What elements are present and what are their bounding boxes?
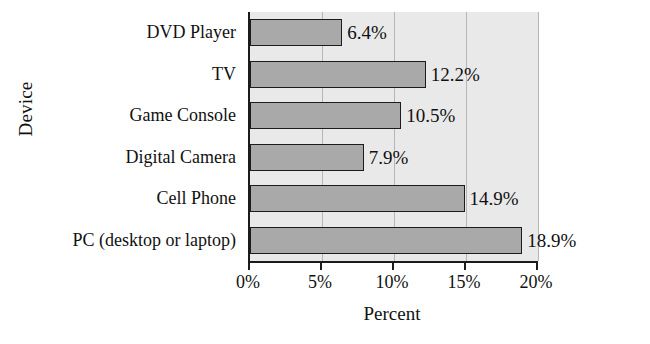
bar-row: 14.9% (250, 185, 538, 212)
x-axis-tick-mark (392, 261, 394, 270)
bar-row: 18.9% (250, 227, 538, 254)
gridline (466, 12, 467, 261)
gridline (538, 12, 539, 261)
y-axis-tick-label: TV (212, 61, 236, 88)
bar-value-label: 7.9% (364, 144, 409, 171)
y-axis-tick-label: Cell Phone (157, 185, 237, 212)
x-axis-tick-label: 15% (429, 272, 499, 293)
bar[interactable] (250, 19, 342, 46)
x-axis-tick-label: 0% (213, 272, 283, 293)
bar-row: 12.2% (250, 61, 538, 88)
bar-row: 7.9% (250, 144, 538, 171)
bar-value-label: 14.9% (465, 185, 519, 212)
bar[interactable] (250, 144, 364, 171)
x-axis-tick-mark (248, 261, 250, 270)
bar[interactable] (250, 102, 401, 129)
bar-value-label: 10.5% (401, 102, 455, 129)
bar[interactable] (250, 227, 522, 254)
y-axis-tick-labels: DVD PlayerTVGame ConsoleDigital CameraCe… (30, 12, 242, 261)
gridline (322, 12, 323, 261)
x-axis-tick-mark (536, 261, 538, 270)
y-axis-tick-label: DVD Player (147, 19, 236, 46)
y-axis-tick-label: PC (desktop or laptop) (73, 227, 237, 254)
x-axis-title: Percent (248, 303, 536, 325)
x-axis-tick-label: 20% (501, 272, 571, 293)
x-axis-tick-label: 10% (357, 272, 427, 293)
x-axis-tick-mark (464, 261, 466, 270)
x-axis-tick-label: 5% (285, 272, 355, 293)
bar-value-label: 18.9% (522, 227, 576, 254)
bar-value-label: 6.4% (342, 19, 387, 46)
bar-chart-figure: Device DVD PlayerTVGame ConsoleDigital C… (0, 0, 650, 344)
y-axis-tick-label: Game Console (130, 102, 236, 129)
bar[interactable] (250, 185, 465, 212)
bar[interactable] (250, 61, 426, 88)
bar-row: 10.5% (250, 102, 538, 129)
y-axis-tick-label: Digital Camera (126, 144, 236, 171)
bar-row: 6.4% (250, 19, 538, 46)
x-axis-tick-mark (320, 261, 322, 270)
gridline (394, 12, 395, 261)
plot-area: 6.4%12.2%10.5%7.9%14.9%18.9% (248, 12, 538, 261)
bar-value-label: 12.2% (426, 61, 480, 88)
